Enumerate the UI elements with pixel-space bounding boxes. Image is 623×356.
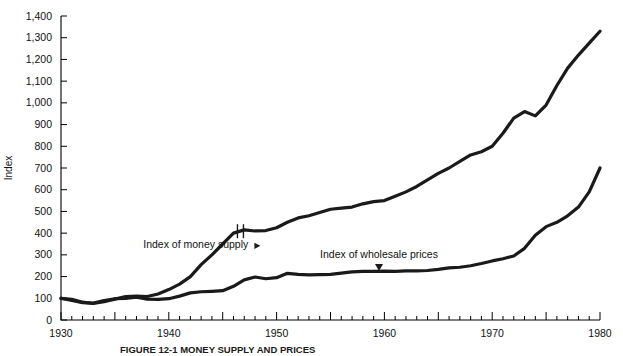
y-tick-label: 200 — [34, 270, 52, 282]
annotation-label: Index of money supply — [143, 238, 249, 250]
series-lines — [61, 31, 600, 303]
y-axis-title: Index — [3, 156, 14, 180]
y-tick-label: 300 — [34, 248, 52, 260]
x-tick-label: 1940 — [157, 327, 181, 339]
y-tick-label: 800 — [34, 140, 52, 152]
y-tick-label: 700 — [34, 162, 52, 174]
y-tick-label: 400 — [34, 227, 52, 239]
y-tick-label: 900 — [34, 118, 52, 130]
y-tick-label: 0 — [46, 314, 52, 326]
y-tick-label: 1,000 — [26, 96, 52, 108]
annotation-label: Index of wholesale prices — [320, 248, 438, 260]
y-tick-label: 1,300 — [26, 31, 52, 43]
y-tick-label: 500 — [34, 205, 52, 217]
x-tick-label: 1950 — [265, 327, 289, 339]
annotation-pointer-right-icon — [254, 243, 260, 249]
x-axis-major-ticks — [61, 312, 600, 320]
x-tick-label: 1980 — [588, 327, 612, 339]
chart-figure: 01002003004005006007008009001,0001,1001,… — [0, 0, 623, 356]
y-axis-tick-labels: 01002003004005006007008009001,0001,1001,… — [26, 10, 52, 326]
money-supply-and-prices-chart: 01002003004005006007008009001,0001,1001,… — [0, 0, 623, 356]
x-axis-tick-labels: 193019401950196019701980 — [49, 327, 612, 339]
y-tick-label: 1,100 — [26, 75, 52, 87]
chart-annotations: Index of money supplyIndex of wholesale … — [143, 238, 438, 271]
y-tick-label: 600 — [34, 183, 52, 195]
x-tick-label: 1960 — [373, 327, 397, 339]
series-line — [61, 168, 600, 303]
y-axis-ticks — [61, 16, 67, 320]
x-tick-label: 1970 — [481, 327, 505, 339]
y-tick-label: 100 — [34, 292, 52, 304]
figure-caption: FIGURE 12-1 MONEY SUPPLY AND PRICES — [120, 344, 315, 355]
series-line — [61, 31, 600, 303]
x-tick-label: 1930 — [49, 327, 73, 339]
y-tick-label: 1,400 — [26, 10, 52, 22]
y-tick-label: 1,200 — [26, 53, 52, 65]
